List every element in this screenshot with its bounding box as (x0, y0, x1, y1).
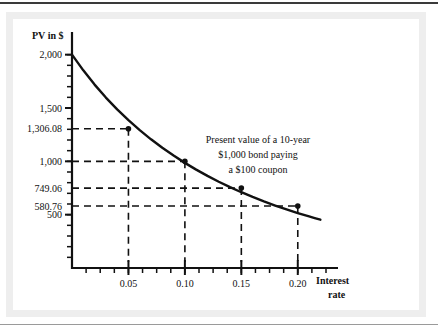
annotation-line-2: $1,000 bond paying (218, 149, 298, 160)
x-tick-label: 0.15 (233, 278, 251, 289)
y-tick-label: 1,500 (40, 103, 63, 114)
top-rule (0, 2, 438, 4)
bottom-rule (0, 324, 438, 325)
y-tick-label: 580.76 (35, 201, 63, 212)
x-axis-title-line2: rate (328, 289, 346, 300)
x-tick-label: 0.05 (120, 278, 138, 289)
annotation-line-1: Present value of a 10-year (206, 134, 311, 145)
y-axis-tick-labels: 2,0001,5001,0005001,306.08749.06580.76 (27, 49, 62, 220)
x-tick-label: 0.20 (289, 278, 307, 289)
x-tick-label: 0.10 (176, 278, 194, 289)
pv-vs-interest-rate-chart: 2,0001,5001,0005001,306.08749.06580.76 0… (6, 12, 426, 317)
x-axis-tick-labels: 0.050.100.150.20 (120, 278, 307, 289)
chart-figure: 2,0001,5001,0005001,306.08749.06580.76 0… (6, 12, 426, 317)
annotation-line-3: a $100 coupon (229, 164, 288, 175)
figure-page: 2,0001,5001,0005001,306.08749.06580.76 0… (0, 0, 438, 334)
y-axis-title: PV in $ (32, 30, 64, 41)
y-tick-label: 1,306.08 (27, 123, 62, 134)
y-tick-label: 749.06 (35, 183, 63, 194)
y-tick-label: 1,000 (40, 156, 63, 167)
x-axis-title-line1: Interest (316, 275, 350, 286)
y-tick-label: 2,000 (40, 49, 63, 60)
